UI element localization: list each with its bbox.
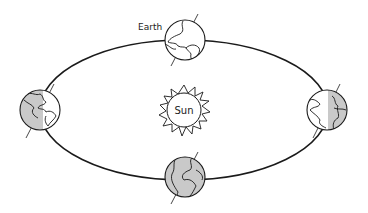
earth-right-icon [307,84,348,138]
sun-icon: Sun [159,85,210,136]
earth-top-icon [165,14,205,66]
earth-bottom-icon [165,152,205,204]
earth-label: Earth [138,22,162,32]
orbit-diagram: Sun Earth [0,0,368,213]
earth-left-icon [20,84,60,138]
sun-label: Sun [174,105,193,116]
